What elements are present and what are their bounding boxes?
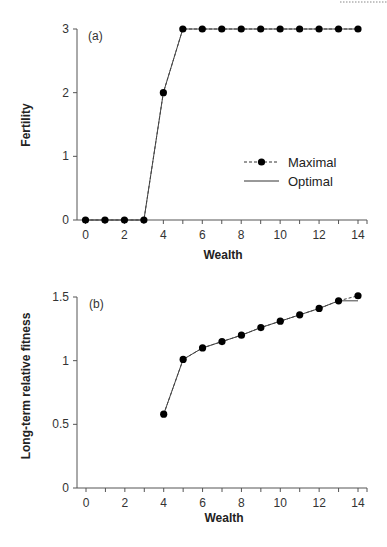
panel-a-label: (a)	[88, 29, 103, 43]
y-tick-label: 3	[62, 22, 69, 36]
figure: 012302468101214 (a) Wealth Fertility Max…	[0, 0, 387, 547]
panel-a-x-axis-title: Wealth	[203, 248, 242, 262]
series-optimal-line	[86, 29, 359, 220]
x-tick-label: 4	[160, 496, 167, 510]
y-tick-label: 1.5	[52, 290, 69, 304]
legend-maximal-marker	[258, 158, 265, 165]
y-tick-label: 1	[62, 354, 69, 368]
series-maximal-marker	[315, 25, 322, 32]
x-tick-label: 8	[238, 228, 245, 242]
x-tick-label: 0	[83, 496, 90, 510]
panel-a-fertility: 012302468101214 (a) Wealth Fertility Max…	[19, 22, 367, 262]
legend-maximal-label: Maximal	[288, 155, 337, 170]
legend-optimal-label: Optimal	[288, 174, 333, 189]
series-maximal-marker	[296, 311, 303, 318]
series-maximal-marker	[335, 297, 342, 304]
panel-a-y-axis-title: Fertility	[19, 103, 33, 147]
series-maximal-line	[164, 296, 358, 414]
series-maximal-marker	[199, 344, 206, 351]
panel-a-axes: 012302468101214	[62, 22, 367, 242]
legend: Maximal Optimal	[244, 155, 337, 189]
series-maximal-marker	[179, 25, 186, 32]
series-maximal-marker	[180, 356, 187, 363]
series-maximal-marker	[140, 216, 147, 223]
y-tick-label: 1	[62, 149, 69, 163]
x-tick-label: 14	[351, 228, 365, 242]
series-optimal-line	[164, 301, 358, 414]
x-tick-label: 0	[82, 228, 89, 242]
x-tick-label: 4	[160, 228, 167, 242]
x-tick-label: 12	[312, 228, 326, 242]
x-tick-label: 6	[199, 496, 206, 510]
x-tick-label: 6	[199, 228, 206, 242]
panel-b-series	[160, 292, 361, 418]
series-maximal-marker	[354, 25, 361, 32]
series-maximal-marker	[121, 216, 128, 223]
panel-b-axes: 00.511.502468101214	[52, 290, 367, 510]
y-tick-label: 0	[62, 481, 69, 495]
panel-b-fitness: 00.511.502468101214 (b) Wealth Long-term…	[19, 290, 367, 525]
y-tick-label: 0.5	[52, 417, 69, 431]
series-maximal-marker	[218, 25, 225, 32]
series-maximal-marker	[257, 25, 264, 32]
series-maximal-marker	[82, 216, 89, 223]
series-maximal-marker	[257, 324, 264, 331]
series-maximal-marker	[238, 332, 245, 339]
series-maximal-marker	[296, 25, 303, 32]
series-maximal-marker	[160, 89, 167, 96]
panel-b-x-axis-title: Wealth	[204, 511, 243, 525]
x-tick-label: 12	[312, 496, 326, 510]
series-maximal-marker	[316, 305, 323, 312]
legend-item-optimal: Optimal	[244, 174, 333, 189]
series-maximal-marker	[218, 338, 225, 345]
panel-a-series	[82, 25, 362, 223]
series-maximal-marker	[277, 318, 284, 325]
panel-b-label: (b)	[89, 297, 104, 311]
series-maximal-marker	[101, 216, 108, 223]
series-maximal-marker	[199, 25, 206, 32]
x-tick-label: 10	[273, 228, 287, 242]
panel-b-y-axis-title: Long-term relative fitness	[19, 312, 33, 459]
x-tick-label: 2	[121, 228, 128, 242]
series-maximal-marker	[238, 25, 245, 32]
x-tick-label: 14	[351, 496, 365, 510]
series-maximal-marker	[354, 292, 361, 299]
x-tick-label: 10	[274, 496, 288, 510]
y-tick-label: 2	[62, 86, 69, 100]
x-tick-label: 2	[122, 496, 129, 510]
series-maximal-marker	[277, 25, 284, 32]
series-maximal-marker	[335, 25, 342, 32]
series-maximal-marker	[160, 411, 167, 418]
y-tick-label: 0	[62, 213, 69, 227]
x-tick-label: 8	[238, 496, 245, 510]
legend-item-maximal: Maximal	[244, 155, 337, 170]
series-maximal-line	[86, 29, 359, 220]
